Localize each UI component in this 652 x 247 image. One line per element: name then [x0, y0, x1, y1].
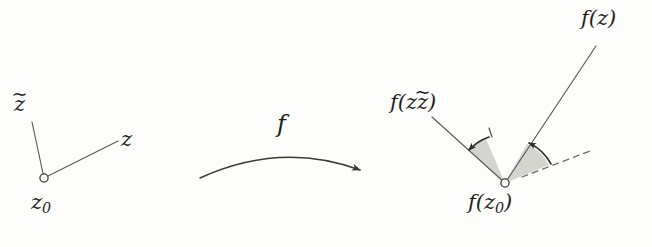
- label-z-tilde: ~z: [14, 94, 25, 115]
- label-f-z0: f(z0): [468, 192, 512, 215]
- tilde-accent-z: ~: [11, 84, 27, 103]
- label-z: z: [121, 129, 132, 150]
- label-f-z0-close: ): [504, 190, 512, 214]
- label-f-z0-base: f(z: [468, 190, 495, 214]
- domain-diagram: [32, 122, 118, 182]
- label-map-f: f: [277, 112, 286, 136]
- label-f-z-tilde-open: f(z: [390, 90, 417, 114]
- range-diagram: [432, 46, 596, 187]
- label-f-z-tilde: f(z~z): [390, 92, 436, 113]
- label-z0-subscript: 0: [42, 200, 51, 216]
- domain-vertex-point: [40, 174, 48, 182]
- map-arrow-group: [200, 157, 360, 178]
- label-z0-base: z: [31, 190, 42, 214]
- figure-canvas: [0, 0, 652, 247]
- domain-plain-ray: [44, 141, 118, 178]
- left-arc-tick: [489, 128, 492, 137]
- label-f-z: f(z): [581, 8, 616, 29]
- label-z0: z0: [31, 192, 51, 215]
- tilde-accent-fz: ~: [414, 82, 430, 101]
- label-f-z0-subscript: 0: [495, 200, 504, 216]
- range-vertex-point: [501, 179, 509, 187]
- map-arrow: [200, 157, 360, 178]
- domain-tilde-ray: [32, 122, 44, 178]
- conformal-map-figure: ~z z z0 f f(z~z) f(z) f(z0): [0, 0, 652, 247]
